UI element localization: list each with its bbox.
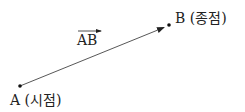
vector-label: AB xyxy=(76,32,97,48)
vector-diagram: AB B (종점) A (시점) xyxy=(0,0,245,112)
point-a-dot xyxy=(18,84,22,88)
point-b-label: B (종점) xyxy=(175,10,227,26)
point-b-dot xyxy=(167,23,171,27)
point-a-label: A (시점) xyxy=(9,92,61,108)
